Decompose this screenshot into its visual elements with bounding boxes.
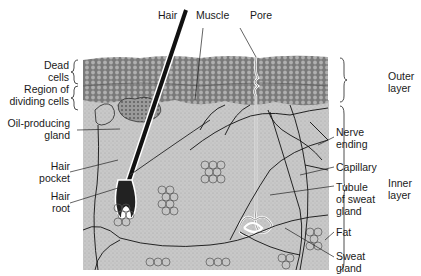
label-oil-gland: Oil-producing gland	[8, 117, 70, 141]
left-braces	[71, 60, 78, 110]
label-dead-cells: Dead cells	[44, 59, 69, 83]
label-outer-layer: Outer layer	[388, 70, 414, 94]
label-fat: Fat	[336, 226, 351, 238]
label-sweat-gland: Sweat gland	[336, 250, 365, 274]
label-dividing-cells: Region of dividing cells	[9, 83, 69, 107]
label-hair-pocket: Hair pocket	[39, 160, 70, 184]
label-capillary: Capillary	[336, 161, 377, 173]
label-inner-layer: Inner layer	[388, 177, 412, 201]
label-tubule: Tubule of sweat gland	[336, 181, 375, 217]
label-hair: Hair	[158, 9, 177, 21]
label-hair-root: Hair root	[51, 190, 70, 214]
outer-layer	[83, 56, 328, 106]
label-pore: Pore	[250, 9, 272, 21]
label-muscle: Muscle	[196, 9, 229, 21]
label-nerve-ending: Nerve ending	[336, 126, 368, 150]
